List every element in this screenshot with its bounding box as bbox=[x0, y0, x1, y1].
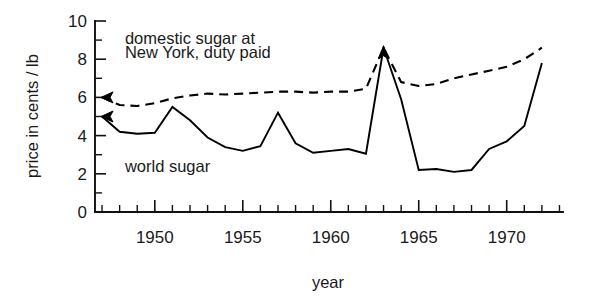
plot-annotations: domestic sugar atNew York, duty paidworl… bbox=[124, 29, 271, 175]
x-tick-label: 1950 bbox=[136, 228, 174, 247]
series-line-world-sugar bbox=[102, 48, 542, 172]
y-tick-label: 8 bbox=[78, 50, 87, 69]
annotation-label: world sugar bbox=[124, 157, 211, 175]
plot-series bbox=[101, 46, 542, 172]
sugar-price-chart: 0246810 19501955196019651970 domestic su… bbox=[0, 0, 590, 307]
x-tick-label: 1965 bbox=[400, 228, 438, 247]
y-axis: 0246810 bbox=[68, 12, 106, 222]
y-axis-title: price in cents / lb bbox=[23, 54, 41, 178]
x-tick-label: 1970 bbox=[488, 228, 526, 247]
spike-apex-marker bbox=[379, 46, 389, 59]
y-tick-label: 6 bbox=[78, 88, 87, 107]
y-tick-label: 4 bbox=[78, 127, 87, 146]
y-tick-label: 2 bbox=[78, 165, 87, 184]
x-tick-label: 1955 bbox=[224, 228, 262, 247]
annotation-label: New York, duty paid bbox=[125, 43, 271, 61]
y-tick-label: 10 bbox=[68, 12, 87, 31]
x-axis-title: year bbox=[312, 273, 345, 291]
series-start-arrow-domestic bbox=[101, 92, 113, 103]
y-tick-label: 0 bbox=[78, 203, 87, 222]
x-axis: 19501955196019651970 bbox=[95, 200, 563, 247]
x-tick-label: 1960 bbox=[312, 228, 350, 247]
